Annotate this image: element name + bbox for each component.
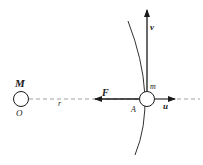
label-central-mass: M [14,77,26,89]
label-point-a: A [130,105,136,114]
label-unit-vector: u [163,101,168,111]
orbit-curve [128,21,145,155]
label-force: F [101,87,109,98]
orbit-force-diagram: M O r F v m A u [0,0,203,165]
central-mass-circle [14,92,29,107]
label-orbiting-mass: m [150,82,156,91]
label-origin: O [16,108,23,118]
label-distance: r [58,99,62,108]
label-velocity: v [150,22,155,32]
orbiting-mass-circle [140,92,155,107]
